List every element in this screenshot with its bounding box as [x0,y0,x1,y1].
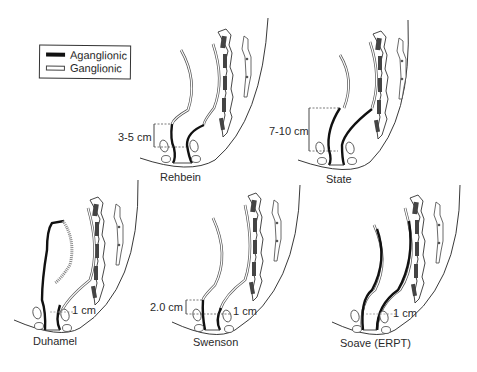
panel-title: State [326,173,352,185]
measurement-label: 1 cm [233,305,257,317]
panel-duhamel: 1 cm Duhamel [14,180,138,347]
measurement-label: 1 cm [72,304,96,316]
panel-title: Duhamel [33,335,77,347]
panel-soave: 1 cm Soave (ERPT) [332,185,460,349]
surgical-diagrams: 3-5 cm Rehbein 7-10 cm State [0,0,477,372]
panel-swenson: 2.0 cm 1 cm Swenson [150,185,300,348]
panel-title: Rehbein [160,171,201,183]
measurement-label: 7-10 cm [269,125,309,137]
measurement-label: 2.0 cm [150,301,183,313]
panel-title: Soave (ERPT) [340,337,411,349]
measurement-label: 1 cm [393,307,417,319]
panel-rehbein: 3-5 cm Rehbein [118,18,268,183]
panel-title: Swenson [193,336,238,348]
panel-state: 7-10 cm State [269,20,408,185]
measurement-label: 3-5 cm [118,131,152,143]
